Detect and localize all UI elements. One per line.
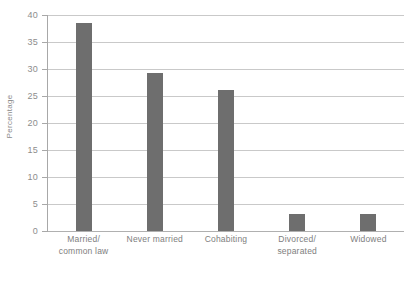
x-axis-label: Married/common law <box>48 234 119 257</box>
x-axis-label-line1: Divorced/ <box>278 234 316 244</box>
y-axis-tick-label: 0 <box>4 226 38 236</box>
bar <box>218 90 234 231</box>
x-axis-label-line1: Never married <box>127 234 183 244</box>
x-axis-tick-labels: Married/common lawNever marriedCohabitin… <box>48 234 404 280</box>
gridline-0 <box>48 231 404 232</box>
bar <box>360 214 376 231</box>
x-axis-label-line2: separated <box>262 246 333 258</box>
y-axis-tick-label: 25 <box>4 91 38 101</box>
y-axis-tick-30 <box>42 69 47 70</box>
x-axis-label-line1: Cohabiting <box>205 234 248 244</box>
y-axis-tick-25 <box>42 96 47 97</box>
bar-slot <box>262 15 333 231</box>
y-axis-tick-20 <box>42 123 47 124</box>
x-axis-label: Widowed <box>333 234 404 246</box>
y-axis-tick-label: 5 <box>4 199 38 209</box>
x-axis-label: Divorced/separated <box>262 234 333 257</box>
y-axis-tick-label: 10 <box>4 172 38 182</box>
x-axis-label: Never married <box>119 234 190 246</box>
y-axis-tick-0 <box>42 231 47 232</box>
y-axis-tick-label: 35 <box>4 37 38 47</box>
bar-slot <box>190 15 261 231</box>
y-axis-tick-label: 40 <box>4 10 38 20</box>
y-axis-tick-40 <box>42 15 47 16</box>
x-axis-label-line1: Married/ <box>67 234 100 244</box>
bar-slot <box>333 15 404 231</box>
y-axis-tick-label: 15 <box>4 145 38 155</box>
bar <box>289 214 305 231</box>
y-axis-tick-15 <box>42 150 47 151</box>
x-axis-label-line1: Widowed <box>350 234 386 244</box>
bar <box>76 23 92 231</box>
bar-series <box>48 15 404 231</box>
y-axis-tick-35 <box>42 42 47 43</box>
y-axis-tick-label: 20 <box>4 118 38 128</box>
bar-slot <box>119 15 190 231</box>
y-axis-tick-5 <box>42 204 47 205</box>
y-axis-tick-label: 30 <box>4 64 38 74</box>
bar <box>147 73 163 231</box>
y-axis-tick-labels: 0510152025303540 <box>0 0 38 282</box>
x-axis-label: Cohabiting <box>190 234 261 246</box>
bar-slot <box>48 15 119 231</box>
x-axis-label-line2: common law <box>48 246 119 258</box>
bar-chart: Percentage 0510152025303540 Married/comm… <box>0 0 418 282</box>
y-axis-tick-10 <box>42 177 47 178</box>
